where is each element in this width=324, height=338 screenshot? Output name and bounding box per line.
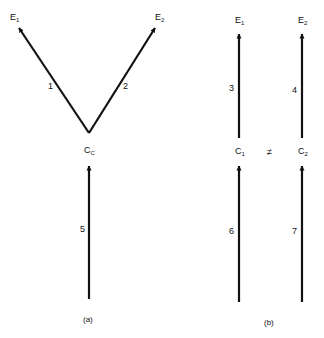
edge-label-4: 4 xyxy=(292,86,297,95)
arrow-1 xyxy=(19,28,89,133)
node-subscript: 2 xyxy=(305,151,308,157)
node-subscript: C xyxy=(91,150,95,156)
node-subscript: 2 xyxy=(161,17,164,23)
node-subscript: 1 xyxy=(16,17,19,23)
node-subscript: 1 xyxy=(241,20,244,26)
caption-a: (a) xyxy=(83,315,93,324)
edge-label-5: 5 xyxy=(80,225,85,234)
node-e1-a: E1 xyxy=(10,13,19,23)
not-equal-symbol: ≠ xyxy=(267,148,272,157)
node-e2-a: E2 xyxy=(155,13,164,23)
panel-a-arrows xyxy=(19,28,155,299)
edge-label-6: 6 xyxy=(229,227,234,236)
node-cc: CC xyxy=(84,146,95,156)
panel-b-arrows xyxy=(239,34,302,302)
node-subscript: 2 xyxy=(304,20,307,26)
edge-label-2: 2 xyxy=(123,82,128,91)
edge-label-7: 7 xyxy=(292,227,297,236)
caption-b: (b) xyxy=(264,318,274,327)
node-c1: C1 xyxy=(235,147,245,157)
node-e1-b: E1 xyxy=(235,16,244,26)
node-subscript: 1 xyxy=(242,151,245,157)
edge-label-3: 3 xyxy=(229,84,234,93)
diagram-canvas xyxy=(0,0,324,338)
edge-label-1: 1 xyxy=(48,82,53,91)
arrow-2 xyxy=(89,28,155,133)
node-e2-b: E2 xyxy=(298,16,307,26)
node-c2: C2 xyxy=(298,147,308,157)
